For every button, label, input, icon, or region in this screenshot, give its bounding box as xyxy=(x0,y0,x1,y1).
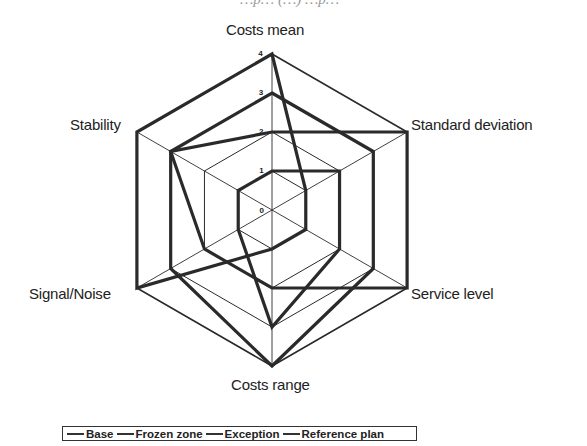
radial-tick-label: 2 xyxy=(259,127,264,136)
legend-label: Exception xyxy=(225,428,280,440)
axis-label-standard-deviation: Standard deviation xyxy=(411,116,533,133)
legend-item-base: Base xyxy=(67,428,114,440)
legend-item-exception: Exception xyxy=(206,428,280,440)
legend-label: Reference plan xyxy=(302,428,384,440)
legend-label: Base xyxy=(86,428,114,440)
radial-tick-label: 1 xyxy=(259,166,264,175)
axis-label-stability: Stability xyxy=(70,116,121,133)
axis-label-signal-noise: Signal/Noise xyxy=(29,285,111,302)
axis-label-costs-range: Costs range xyxy=(231,376,310,393)
radial-tick-label: 0 xyxy=(260,206,265,215)
radial-tick-label: 4 xyxy=(258,49,263,58)
legend-item-reference-plan: Reference plan xyxy=(283,428,384,440)
legend-item-frozen-zone: Frozen zone xyxy=(117,428,203,440)
series-line-exception xyxy=(171,132,407,288)
line-swatch-icon xyxy=(117,433,134,435)
radial-tick-label: 3 xyxy=(259,88,264,97)
axis-label-costs-mean: Costs mean xyxy=(226,21,304,38)
radar-grid xyxy=(137,54,407,366)
axis-label-service-level: Service level xyxy=(411,285,493,302)
series-line-reference-plan xyxy=(238,171,339,327)
legend-label: Frozen zone xyxy=(136,428,203,440)
line-swatch-icon xyxy=(67,433,84,435)
line-swatch-icon xyxy=(206,433,223,435)
line-swatch-icon xyxy=(283,433,300,435)
chart-legend: Base Frozen zone Exception Reference pla… xyxy=(62,426,417,441)
